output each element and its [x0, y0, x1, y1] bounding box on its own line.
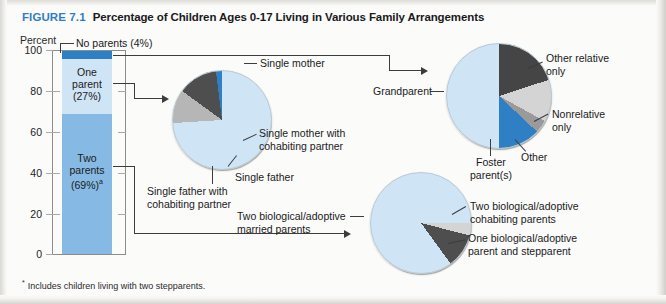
- callout-foster-parents: Foster parent(s): [464, 156, 518, 181]
- callout-no-parents: No parents (4%): [76, 37, 152, 50]
- figure-container: FIGURE 7.1Percentage of Children Ages 0-…: [0, 0, 666, 304]
- bar-label-footnote-marker: a: [99, 178, 103, 185]
- plot-area: Percent 100 80 60 40 20 0 One parent: [0, 26, 666, 276]
- y-tick-40: [46, 173, 60, 174]
- y-tick-label-40: 40: [16, 167, 42, 179]
- footnote-marker: *: [22, 279, 25, 286]
- leader-no-parents-to-pie-h2: [389, 70, 422, 71]
- figure-title: FIGURE 7.1Percentage of Children Ages 0-…: [22, 11, 484, 23]
- leader-no-parents-to-pie-h1: [113, 55, 389, 56]
- pie-two-parents[interactable]: [370, 172, 472, 274]
- y-tick-right-20: [118, 214, 126, 215]
- callout-grandparent: Grandparent: [373, 85, 432, 98]
- callout-other: Other: [521, 151, 547, 164]
- y-tick-right-60: [118, 132, 126, 133]
- callout-single-father-cohabiting: Single father with cohabiting partner: [147, 185, 231, 210]
- figure-number: FIGURE 7.1: [22, 11, 86, 23]
- x-axis-line: [52, 254, 126, 255]
- pie-one-parent[interactable]: [172, 70, 272, 170]
- callout-other-relative-only: Other relative only: [546, 52, 609, 77]
- leader-grandparent: [430, 91, 444, 92]
- leader-one-parent-h2: [134, 98, 163, 99]
- page-edge-bottom: [0, 295, 666, 304]
- pie-no-parents[interactable]: [446, 43, 552, 149]
- y-tick-label-80: 80: [16, 85, 42, 97]
- y-tick-100: [46, 50, 53, 51]
- y-tick-right-80: [118, 91, 126, 92]
- callout-single-mother-cohabiting: Single mother with cohabiting partner: [259, 127, 345, 152]
- callout-two-bio-married: Two biological/adoptive married parents: [237, 210, 346, 235]
- page-edge-top: [0, 0, 666, 6]
- callout-one-bio-stepparent: One biological/adoptive parent and stepp…: [468, 232, 577, 257]
- callout-single-father: Single father: [235, 171, 294, 184]
- leader-one-parent-h1: [113, 83, 134, 84]
- callout-single-mother: Single mother: [260, 57, 325, 70]
- leader-single-father-cohabiting: [212, 166, 213, 184]
- leader-two-parents-v: [134, 166, 135, 233]
- leader-foster-parents: [490, 139, 491, 156]
- y-tick-label-60: 60: [16, 126, 42, 138]
- leader-one-parent-v: [134, 83, 135, 98]
- callout-two-bio-cohabiting: Two biological/adoptive cohabiting paren…: [470, 200, 579, 225]
- figure-footnote: *Includes children living with two stepp…: [22, 279, 205, 291]
- leader-two-bio-married: [350, 216, 364, 217]
- plot-frame-right: [125, 50, 126, 255]
- footnote-text: Includes children living with two steppa…: [28, 281, 206, 291]
- y-axis-line: [52, 50, 53, 255]
- y-tick-label-0: 0: [16, 248, 42, 260]
- bar-label-two-parents: Two parents (69%)a: [62, 152, 112, 191]
- leader-no-parents-to-pie-v: [389, 55, 390, 70]
- figure-title-text: Percentage of Children Ages 0-17 Living …: [93, 11, 485, 23]
- y-tick-80: [46, 91, 60, 92]
- y-tick-20: [46, 214, 60, 215]
- arrow-no-parents: [421, 67, 428, 75]
- y-tick-right-40: [118, 173, 126, 174]
- bar-segment-no-parents[interactable]: [62, 51, 112, 59]
- arrow-one-parent: [162, 95, 169, 103]
- bar-label-one-parent: One parent (27%): [62, 66, 112, 102]
- leader-single-mother: [244, 63, 257, 64]
- y-tick-60: [46, 132, 60, 133]
- leader-no-parents-vertical: [60, 43, 61, 53]
- callout-nonrelative-only: Nonrelative only: [552, 108, 605, 133]
- y-tick-label-20: 20: [16, 208, 42, 220]
- leader-two-parents-h1: [113, 166, 134, 167]
- y-tick-0: [46, 254, 53, 255]
- leader-no-parents-horizontal: [60, 43, 74, 44]
- y-tick-label-100: 100: [16, 44, 42, 56]
